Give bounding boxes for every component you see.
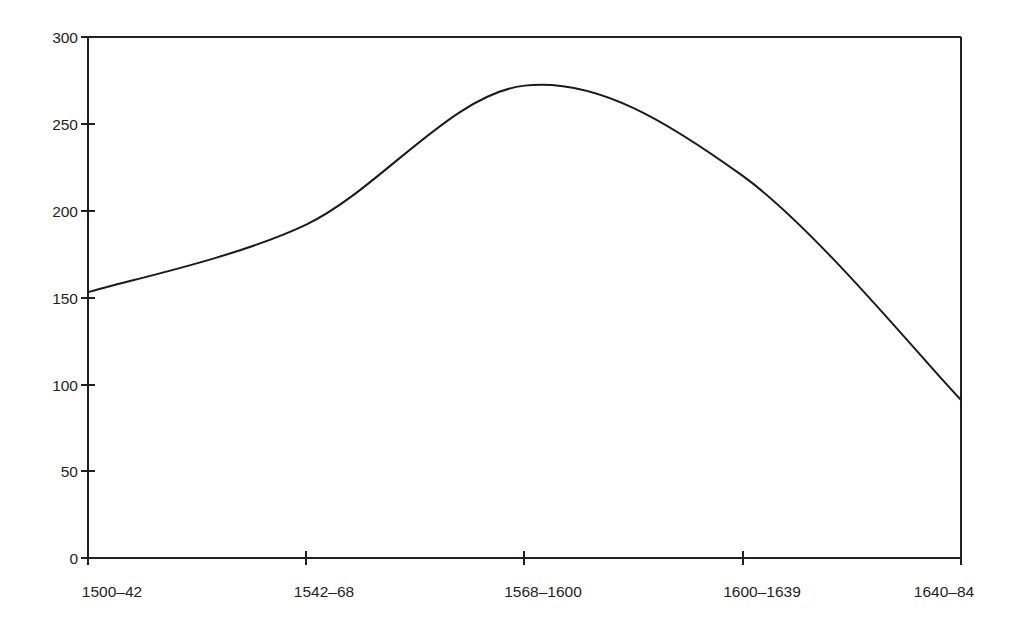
y-tick-label-50: 50 — [61, 463, 79, 480]
line-chart-figure: 300 250 200 150 100 50 0 1500–42 1542–68… — [0, 0, 1011, 632]
y-tick-label-300: 300 — [52, 29, 78, 46]
chart-canvas: 300 250 200 150 100 50 0 1500–42 1542–68… — [0, 0, 1011, 632]
x-tick-label-2: 1542–68 — [294, 583, 354, 600]
y-tick-label-100: 100 — [52, 377, 78, 394]
y-tick-label-150: 150 — [52, 290, 78, 307]
y-tick-label-200: 200 — [52, 203, 78, 220]
y-axis-tick-labels: 300 250 200 150 100 50 0 — [52, 29, 78, 567]
y-tick-label-250: 250 — [52, 116, 78, 133]
chart-page: 300 250 200 150 100 50 0 1500–42 1542–68… — [0, 0, 1011, 632]
x-tick-label-4: 1600–1639 — [723, 583, 801, 600]
y-tick-label-0: 0 — [69, 550, 78, 567]
x-tick-label-1: 1500–42 — [82, 583, 142, 600]
x-axis-tick-labels: 1500–42 1542–68 1568–1600 1600–1639 1640… — [82, 583, 975, 600]
data-series-line — [88, 85, 961, 400]
x-tick-label-5: 1640–84 — [914, 583, 975, 600]
x-tick-label-3: 1568–1600 — [504, 583, 582, 600]
